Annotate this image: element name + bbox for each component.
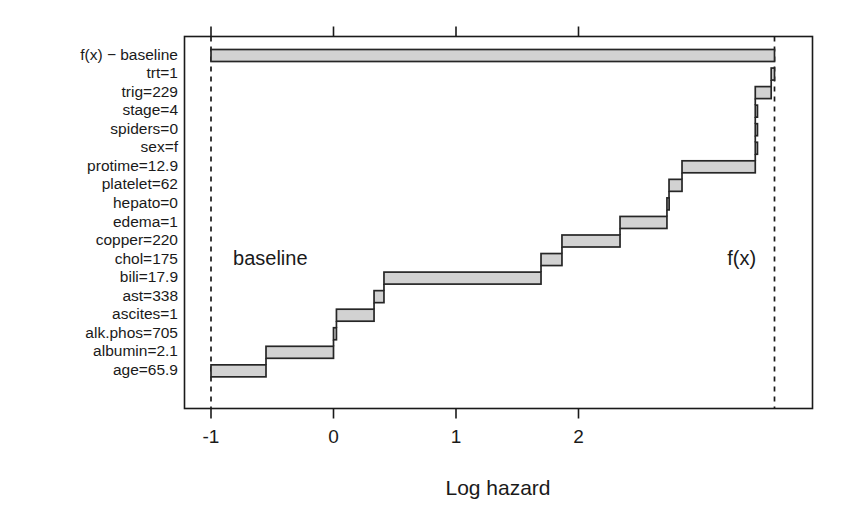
row-label-protime: protime=12.9	[87, 157, 178, 174]
waterfall-bar	[755, 124, 757, 136]
bottom-axis-ticks	[211, 409, 579, 419]
waterfall-bar	[211, 365, 266, 377]
waterfall-bar	[336, 309, 374, 321]
waterfall-bar	[669, 179, 682, 191]
row-label-alk.phos: alk.phos=705	[85, 324, 178, 341]
plot-annotations: baselinef(x)	[233, 247, 756, 269]
row-label-trig: trig=229	[122, 83, 178, 100]
x-tick-labels: -1012	[203, 426, 584, 447]
waterfall-bar	[755, 87, 771, 99]
waterfall-bar	[771, 68, 774, 80]
x-tick-label-2: 2	[573, 426, 584, 447]
row-label-sex: sex=f	[141, 138, 179, 155]
waterfall-bar	[562, 235, 620, 247]
row-label-ascites: ascites=1	[112, 305, 178, 322]
waterfall-bar	[384, 272, 541, 284]
row-label-age: age=65.9	[113, 361, 178, 378]
log-hazard-waterfall-figure: f(x) − baselinetrt=1trig=229stage=4spide…	[0, 0, 854, 515]
x-axis-title: Log hazard	[445, 476, 550, 499]
waterfall-bar	[541, 254, 562, 266]
top-axis-ticks	[211, 27, 579, 37]
waterfall-bar	[755, 105, 757, 117]
row-label-albumin: albumin=2.1	[93, 342, 178, 359]
annotation-fx: f(x)	[727, 247, 756, 269]
waterfall-bars	[211, 50, 775, 377]
row-label-edema: edema=1	[113, 213, 178, 230]
waterfall-bar	[682, 161, 755, 173]
x-tick-label-1: 1	[451, 426, 462, 447]
row-label-platelet: platelet=62	[102, 175, 178, 192]
row-label-ast: ast=338	[122, 287, 178, 304]
waterfall-bar	[667, 198, 669, 210]
waterfall-bar	[334, 328, 337, 340]
row-label-hepato: hepato=0	[113, 194, 178, 211]
waterfall-chart-svg: f(x) − baselinetrt=1trig=229stage=4spide…	[0, 0, 854, 515]
row-label-trt: trt=1	[147, 64, 178, 81]
row-label-copper: copper=220	[96, 231, 179, 248]
x-tick-label-0: 0	[328, 426, 339, 447]
waterfall-bar	[374, 291, 384, 303]
waterfall-bar	[211, 50, 775, 62]
x-tick-label--1: -1	[203, 426, 220, 447]
annotation-baseline: baseline	[233, 247, 308, 269]
row-label-stage: stage=4	[122, 101, 178, 118]
waterfall-bar	[620, 216, 667, 228]
waterfall-bar	[755, 142, 757, 154]
waterfall-bar	[266, 346, 333, 358]
row-label-spiders: spiders=0	[110, 120, 178, 137]
row-label-chol: chol=175	[115, 250, 178, 267]
row-label-bili: bili=17.9	[120, 268, 178, 285]
row-labels: f(x) − baselinetrt=1trig=229stage=4spide…	[80, 46, 178, 378]
row-label-fxbaseline: f(x) − baseline	[80, 46, 178, 63]
